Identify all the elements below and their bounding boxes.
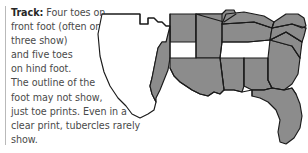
state-oklahoma-eastern-shaded bbox=[170, 14, 196, 42]
range-map-svg bbox=[96, 2, 308, 153]
left-vertical-rule bbox=[5, 6, 6, 145]
state-florida-shaded bbox=[252, 88, 302, 144]
state-louisiana-shaded bbox=[170, 58, 224, 96]
figure-root: Track: Four toes on front foot (often on… bbox=[0, 0, 308, 153]
range-map bbox=[96, 2, 308, 153]
track-label: Track: bbox=[11, 7, 43, 18]
